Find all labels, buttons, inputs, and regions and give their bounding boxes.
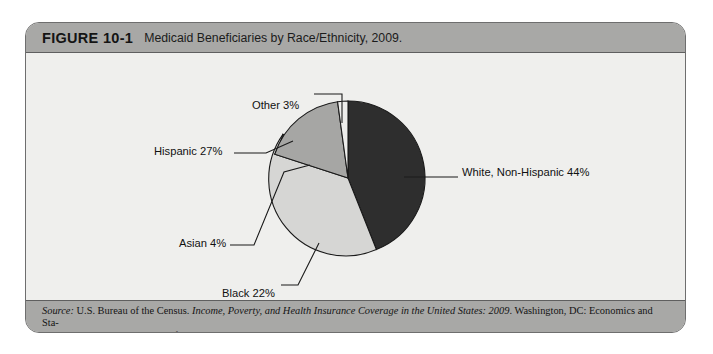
pie-label-white-non-hispanic: White, Non-Hispanic 44% [462, 166, 589, 178]
pie-label-black: Black 22% [222, 287, 275, 299]
pie-label-hispanic: Hispanic 27% [154, 145, 222, 157]
chart-plot-area: Other 3% Hispanic 27% White, Non-Hispani… [26, 53, 685, 301]
figure-source-band: Source: U.S. Bureau of the Census. Incom… [26, 301, 685, 332]
source-publication-title: Income, Poverty, and Health Insurance Co… [192, 305, 509, 316]
figure-number: FIGURE 10-1 [42, 30, 133, 46]
figure-header: FIGURE 10-1 Medicaid Beneficiaries by Ra… [26, 23, 685, 53]
figure-source-line-1: Source: U.S. Bureau of the Census. Incom… [42, 305, 671, 330]
figure-source-line-2: tistics Administration. Bureau of the U.… [42, 330, 671, 333]
figure-container: FIGURE 10-1 Medicaid Beneficiaries by Ra… [25, 22, 686, 333]
pie-label-asian: Asian 4% [179, 237, 226, 249]
figure-title: Medicaid Beneficiaries by Race/Ethnicity… [144, 31, 402, 45]
source-text-a: U.S. Bureau of the Census. [74, 305, 192, 316]
pie-label-other: Other 3% [252, 99, 299, 111]
source-label: Source: [42, 305, 74, 316]
